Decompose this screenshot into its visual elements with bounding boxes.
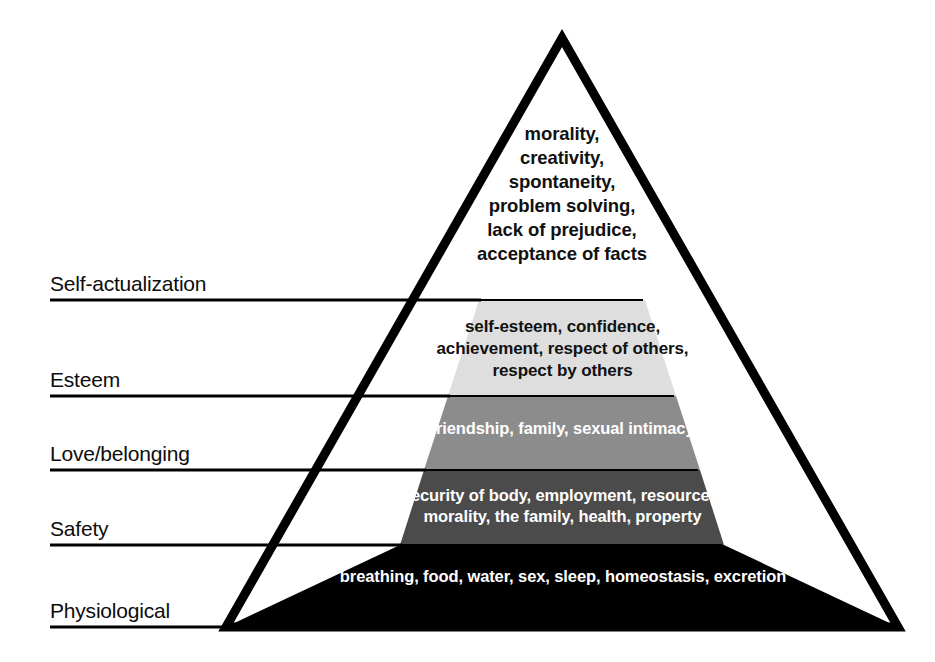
pyramid-tiers	[226, 38, 898, 627]
tier-shape-self-actualization	[479, 38, 645, 300]
level-label-esteem: Esteem	[50, 368, 120, 392]
level-label-self-actualization: Self-actualization	[50, 272, 206, 296]
tier-shape-love-belonging	[424, 396, 700, 470]
level-label-safety: Safety	[50, 517, 108, 541]
tier-shape-esteem	[448, 300, 676, 396]
level-label-physiological: Physiological	[50, 599, 170, 623]
diagram-canvas: morality, creativity, spontaneity, probl…	[0, 0, 935, 662]
tier-shape-safety	[400, 470, 724, 545]
tier-shape-physiological	[226, 545, 898, 627]
level-label-love-belonging: Love/belonging	[50, 442, 190, 466]
maslow-pyramid	[0, 0, 935, 662]
